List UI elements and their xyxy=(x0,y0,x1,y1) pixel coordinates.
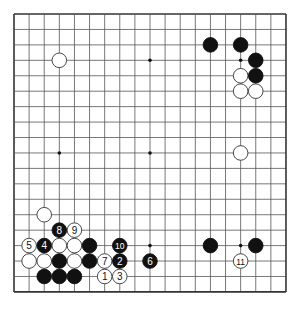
white-stone: 7 xyxy=(97,254,112,269)
star-point xyxy=(148,59,152,63)
move-number: 9 xyxy=(72,225,78,236)
star-point xyxy=(239,244,243,248)
white-stone: 1 xyxy=(97,269,112,284)
move-number: 1 xyxy=(102,271,108,282)
black-stone xyxy=(67,269,82,284)
black-stone xyxy=(37,269,52,284)
black-stone xyxy=(82,238,97,253)
black-stone: 10 xyxy=(112,238,127,253)
white-stone: 3 xyxy=(112,269,127,284)
white-stone: 5 xyxy=(22,238,37,253)
black-stone xyxy=(233,38,248,53)
black-stone xyxy=(52,269,67,284)
black-stone xyxy=(248,238,263,253)
move-number: 4 xyxy=(41,240,47,251)
move-number: 11 xyxy=(236,257,245,267)
white-stone xyxy=(233,68,248,83)
black-stone xyxy=(203,38,218,53)
white-stone xyxy=(37,254,52,269)
white-stone: 9 xyxy=(67,223,82,238)
black-stone xyxy=(52,254,67,269)
black-stone xyxy=(248,68,263,83)
star-point xyxy=(58,151,62,155)
star-point xyxy=(239,59,243,63)
move-number: 6 xyxy=(147,256,153,267)
white-stone xyxy=(22,254,37,269)
move-number: 10 xyxy=(115,241,125,251)
move-number: 3 xyxy=(117,271,123,282)
star-point xyxy=(148,151,152,155)
star-point xyxy=(148,244,152,248)
black-stone xyxy=(203,238,218,253)
move-number: 2 xyxy=(117,256,123,267)
white-stone xyxy=(248,84,263,99)
white-stone xyxy=(67,238,82,253)
white-stone: 11 xyxy=(233,254,248,269)
stones-layer: 8954107261311 xyxy=(22,38,263,284)
white-stone xyxy=(52,53,67,68)
black-stone: 2 xyxy=(112,254,127,269)
move-number: 7 xyxy=(102,256,108,267)
move-number: 8 xyxy=(57,225,63,236)
black-stone: 4 xyxy=(37,238,52,253)
black-stone: 8 xyxy=(52,223,67,238)
black-stone: 6 xyxy=(143,254,158,269)
white-stone xyxy=(37,207,52,222)
white-stone xyxy=(52,238,67,253)
white-stone xyxy=(233,84,248,99)
black-stone xyxy=(82,254,97,269)
move-number: 5 xyxy=(26,240,32,251)
black-stone xyxy=(248,53,263,68)
go-board: 8954107261311 xyxy=(0,0,295,314)
white-stone xyxy=(67,254,82,269)
white-stone xyxy=(233,146,248,161)
